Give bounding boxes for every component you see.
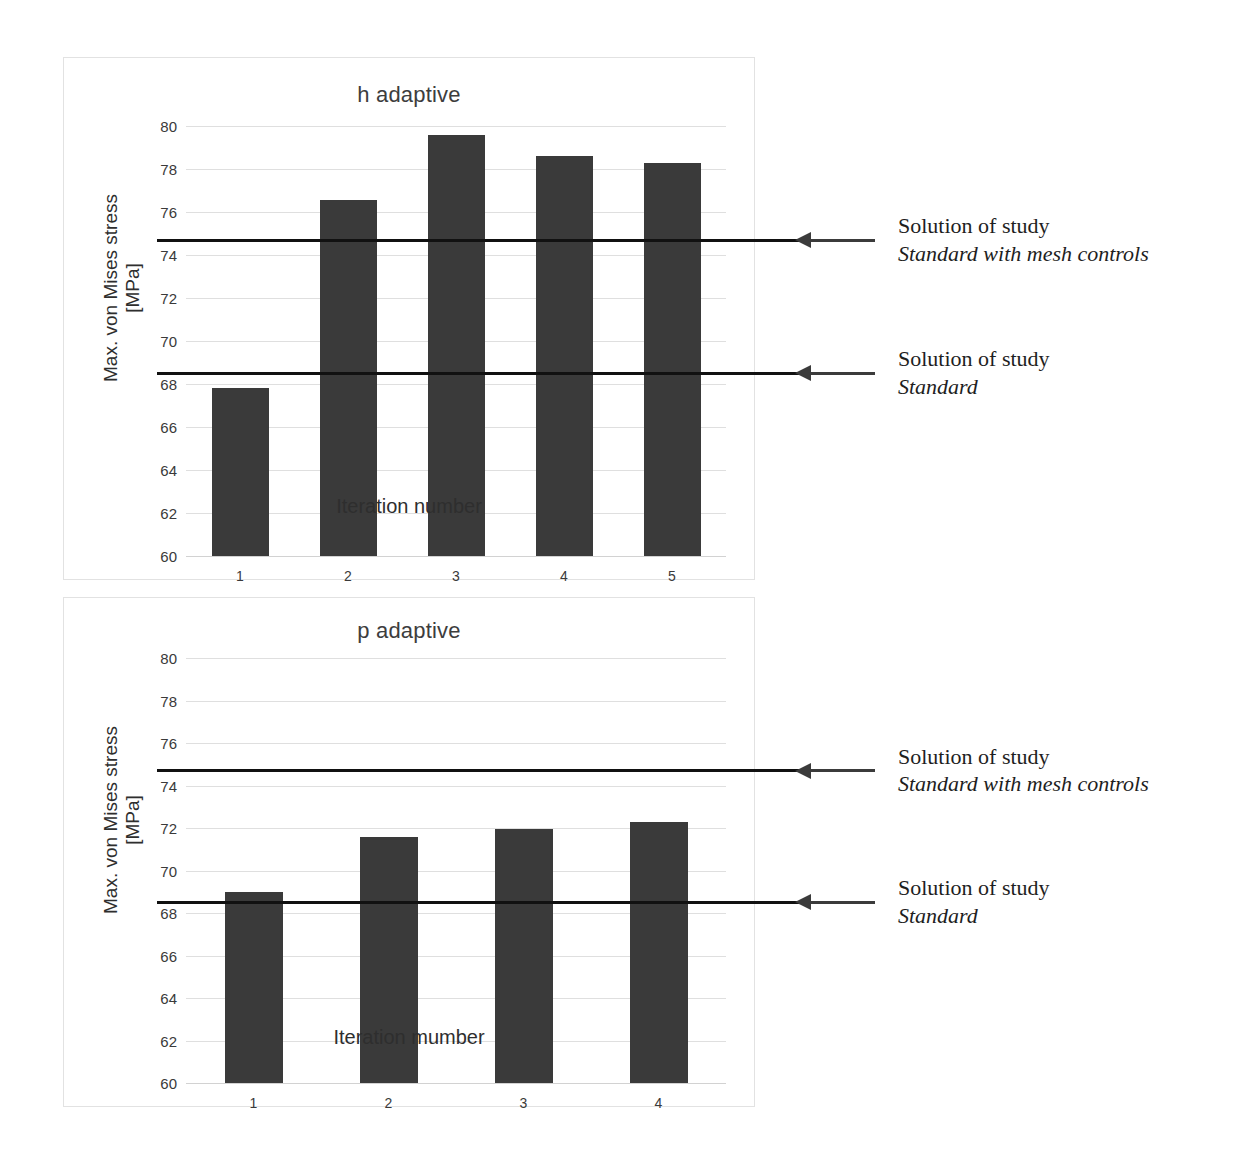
arrow-shaft (805, 901, 875, 904)
annotation-line1: Solution of study (898, 212, 1149, 240)
gridline (186, 743, 726, 744)
gridline (186, 556, 726, 557)
annotation-arrow-bottom-p (795, 894, 875, 910)
annotation-line2: Standard with mesh controls (898, 770, 1149, 798)
annotation-line1: Solution of study (898, 345, 1050, 373)
annotation-line1: Solution of study (898, 874, 1050, 902)
annotation-standard-p: Solution of study Standard (898, 874, 1050, 929)
x-axis-label-p: Iteration mumber (64, 1026, 754, 1049)
y-axis-tick: 74 (160, 777, 177, 794)
y-axis-tick: 74 (160, 247, 177, 264)
figure-root: h adaptive Max. von Mises stress [MPa] 8… (0, 0, 1241, 1163)
x-axis-tick: 2 (385, 1095, 393, 1111)
bar (212, 388, 269, 556)
reference-line-standard-mesh-h (157, 239, 875, 242)
arrow-shaft (805, 372, 875, 375)
annotation-standard-mesh-p: Solution of study Standard with mesh con… (898, 743, 1149, 798)
x-axis-tick: 3 (520, 1095, 528, 1111)
gridline (186, 126, 726, 127)
y-axis-tick: 68 (160, 905, 177, 922)
y-axis-tick: 60 (160, 548, 177, 565)
x-axis-tick: 1 (236, 568, 244, 584)
plot-area-p: 80787674727068666462601234 (186, 658, 726, 1083)
x-axis-tick: 1 (250, 1095, 258, 1111)
y-axis-label-h: Max. von Mises stress [MPa] (100, 138, 144, 438)
bar (225, 892, 283, 1083)
y-axis-tick: 70 (160, 862, 177, 879)
annotation-line2: Standard (898, 373, 1050, 401)
arrow-shaft (805, 769, 875, 772)
annotation-arrow-top-h (795, 232, 875, 248)
gridline (186, 786, 726, 787)
y-axis-tick: 60 (160, 1075, 177, 1092)
chart-title-h: h adaptive (64, 82, 754, 108)
y-axis-label-line1: Max. von Mises stress (100, 138, 122, 438)
y-axis-tick: 76 (160, 204, 177, 221)
annotation-line1: Solution of study (898, 743, 1149, 771)
y-axis-tick: 80 (160, 118, 177, 135)
y-axis-tick: 68 (160, 376, 177, 393)
reference-line-standard-p (157, 901, 875, 904)
chart-panel-h-adaptive: h adaptive Max. von Mises stress [MPa] 8… (63, 57, 755, 580)
y-axis-tick: 78 (160, 161, 177, 178)
x-axis-label-h: Iteration number (64, 495, 754, 518)
x-axis-tick: 4 (655, 1095, 663, 1111)
reference-line-standard-h (157, 372, 875, 375)
x-axis-tick: 4 (560, 568, 568, 584)
y-axis-tick: 78 (160, 692, 177, 709)
gridline (186, 658, 726, 659)
y-axis-tick: 70 (160, 333, 177, 350)
reference-line-standard-mesh-p (157, 769, 875, 772)
y-axis-tick: 72 (160, 290, 177, 307)
x-axis-tick: 5 (668, 568, 676, 584)
gridline (186, 1083, 726, 1084)
chart-panel-p-adaptive: p adaptive Max. von Mises stress [MPa] 8… (63, 597, 755, 1107)
annotation-line2: Standard with mesh controls (898, 240, 1149, 268)
bar (428, 135, 485, 556)
plot-area-h: 807876747270686664626012345 (186, 126, 726, 556)
y-axis-label-line2: [MPa] (122, 138, 144, 438)
y-axis-tick: 66 (160, 947, 177, 964)
y-axis-tick: 64 (160, 990, 177, 1007)
x-axis-tick: 2 (344, 568, 352, 584)
y-axis-tick: 76 (160, 735, 177, 752)
annotation-line2: Standard (898, 902, 1050, 930)
annotation-arrow-top-p (795, 763, 875, 779)
y-axis-tick: 66 (160, 419, 177, 436)
annotation-standard-h: Solution of study Standard (898, 345, 1050, 400)
arrow-shaft (805, 239, 875, 242)
y-axis-tick: 72 (160, 820, 177, 837)
y-axis-label-p: Max. von Mises stress [MPa] (100, 670, 144, 970)
y-axis-label-line2: [MPa] (122, 670, 144, 970)
x-axis-tick: 3 (452, 568, 460, 584)
y-axis-tick: 64 (160, 462, 177, 479)
y-axis-label-line1: Max. von Mises stress (100, 670, 122, 970)
annotation-standard-mesh-h: Solution of study Standard with mesh con… (898, 212, 1149, 267)
chart-title-p: p adaptive (64, 618, 754, 644)
y-axis-tick: 80 (160, 650, 177, 667)
gridline (186, 701, 726, 702)
annotation-arrow-bottom-h (795, 365, 875, 381)
